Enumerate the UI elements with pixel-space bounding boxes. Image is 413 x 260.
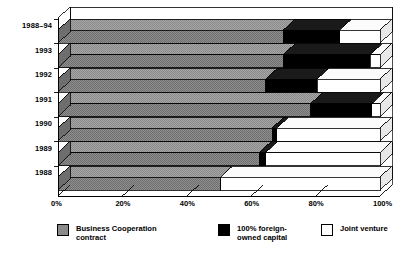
bar-segment-front — [259, 153, 265, 166]
bar-segment-front — [58, 153, 259, 166]
bar-segment-front — [283, 55, 370, 68]
bar-segment-top — [277, 117, 392, 128]
bar-segment-top — [58, 166, 233, 177]
bar-segment-top — [283, 44, 382, 55]
x-axis-label: 20% — [115, 199, 130, 209]
bar-row — [58, 117, 392, 141]
plot-area — [0, 0, 413, 205]
bar-segment-front — [266, 79, 318, 92]
bar-segment-top — [58, 142, 271, 153]
bar-segment-front — [372, 104, 380, 117]
stacked-bar-chart: 1988–94199319921991199019891988 0%20%40%… — [0, 0, 413, 260]
x-axis-label: 80% — [309, 199, 324, 209]
bar-segment-front — [277, 128, 380, 141]
bar-segment-top — [317, 68, 392, 79]
bar-segment-top — [58, 19, 295, 30]
bar-segment-front — [266, 153, 380, 166]
bar-row — [58, 19, 392, 43]
bar-segment-front — [272, 128, 277, 141]
bar-segment-top — [58, 93, 323, 104]
legend-label: 100% foreign- owned capital — [237, 224, 287, 243]
bar-row — [58, 68, 392, 92]
legend-swatch-white — [321, 224, 333, 236]
bar-segment-top — [58, 117, 284, 128]
bar-segment-front — [340, 30, 380, 43]
bar-segment-front — [283, 30, 339, 43]
bar-segment-front — [58, 104, 311, 117]
bar-segment-top — [58, 44, 295, 55]
bar-row — [58, 166, 392, 190]
bar-segment-front — [221, 177, 380, 190]
bar-segment-front — [58, 177, 221, 190]
bar-segment-front — [58, 55, 283, 68]
bar-segment-front — [58, 30, 283, 43]
legend-swatch-gray — [57, 224, 69, 236]
legend-label: Joint venture — [340, 224, 388, 233]
bar-row — [58, 44, 392, 68]
bar-segment-top — [311, 93, 384, 104]
legend-item: Business Cooperation contract — [57, 224, 157, 243]
bar-segment-front — [58, 79, 266, 92]
bar-segment-front — [311, 104, 372, 117]
bar-segment-front — [317, 79, 380, 92]
bar-segment-top — [221, 166, 392, 177]
bar-row — [58, 142, 392, 166]
bar-segment-top — [58, 68, 278, 79]
legend-label: Business Cooperation contract — [76, 224, 157, 243]
bar-segment-top — [266, 142, 392, 153]
x-axis-labels: 0%20%40%60%80%100% — [0, 199, 413, 215]
bar-row — [58, 93, 392, 117]
legend-item: 100% foreign- owned capital — [218, 224, 287, 243]
legend-item: Joint venture — [321, 224, 388, 236]
x-axis-label: 60% — [244, 199, 259, 209]
bar-segment-front — [58, 128, 272, 141]
x-axis-label: 40% — [180, 199, 195, 209]
chart-legend: Business Cooperation contract100% foreig… — [0, 222, 413, 260]
x-axis-label: 0% — [51, 199, 62, 209]
x-axis-label: 100% — [373, 199, 392, 209]
bar-segment-front — [370, 55, 380, 68]
legend-swatch-black — [218, 224, 230, 236]
